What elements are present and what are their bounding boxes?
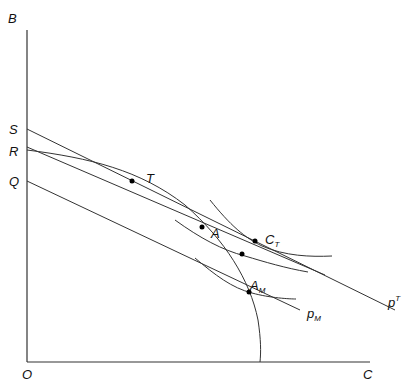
point-A (200, 225, 205, 230)
price-line-R (27, 147, 325, 275)
price-line-pT-label: pT (388, 296, 400, 309)
point-T-label: T (146, 172, 154, 185)
point-AM-label: AM (250, 279, 265, 292)
point-CT-base: C (265, 232, 274, 247)
price-line-pT (27, 129, 395, 310)
point-consumption (240, 252, 245, 257)
point-AM-sub: M (259, 286, 266, 295)
point-CT-sub: T (274, 240, 279, 249)
point-A-label: A (211, 227, 220, 240)
indifference-curve-A (175, 220, 308, 272)
origin-label: O (22, 368, 32, 381)
point-AM-base: A (250, 278, 259, 293)
price-line-pM-label: pM (307, 307, 321, 320)
x-axis-label: C (363, 368, 372, 381)
production-frontier-curve (27, 150, 261, 362)
point-T (130, 179, 135, 184)
pT-sup: T (395, 294, 400, 303)
point-CT (253, 239, 258, 244)
intercept-R-label: R (9, 145, 18, 158)
point-CT-label: CT (265, 233, 279, 246)
intercept-S-label: S (9, 123, 18, 136)
intercept-Q-label: Q (9, 175, 19, 188)
diagram-canvas (0, 0, 408, 389)
y-axis-label: B (8, 12, 17, 25)
pM-sub: M (314, 314, 321, 323)
indifference-curve-AM (195, 258, 296, 299)
